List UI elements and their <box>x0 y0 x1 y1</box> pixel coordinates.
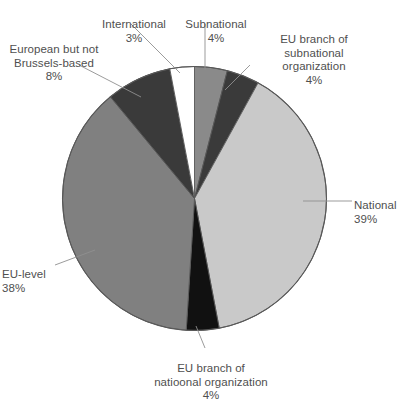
slice-label-eu-branch-national: EU branch of natioonal organization 4% <box>128 349 294 399</box>
pie-slices <box>62 67 326 331</box>
slice-label-national-name: National <box>354 199 397 211</box>
slice-label-european-not-brussels-name: European but not Brussels-based <box>9 43 98 68</box>
slice-label-eu-branch-subnational: EU branch of subnational organization 4% <box>252 20 376 100</box>
slice-label-national-pct: 39% <box>354 213 416 226</box>
slice-label-eu-level: EU-level 38% <box>2 255 64 309</box>
slice-label-eu-branch-national-name: EU branch of natioonal organization <box>154 362 268 387</box>
slice-label-subnational-pct: 4% <box>168 32 264 45</box>
slice-label-european-not-brussels: European but not Brussels-based 8% <box>0 30 108 97</box>
slice-label-eu-branch-subnational-pct: 4% <box>252 74 376 87</box>
pie-chart: International 3% Subnational 4% EU branc… <box>0 0 416 399</box>
slice-label-eu-branch-subnational-name: EU branch of subnational organization <box>280 33 348 72</box>
slice-label-subnational: Subnational 4% <box>168 5 264 59</box>
slice-label-european-not-brussels-pct: 8% <box>0 70 108 83</box>
slice-label-eu-level-pct: 38% <box>2 282 64 295</box>
slice-label-subnational-name: Subnational <box>185 18 246 30</box>
slice-label-eu-level-name: EU-level <box>2 268 46 280</box>
slice-label-international-name: International <box>102 18 166 30</box>
slice-label-national: National 39% <box>354 186 416 240</box>
slice-label-eu-branch-national-pct: 4% <box>128 389 294 399</box>
